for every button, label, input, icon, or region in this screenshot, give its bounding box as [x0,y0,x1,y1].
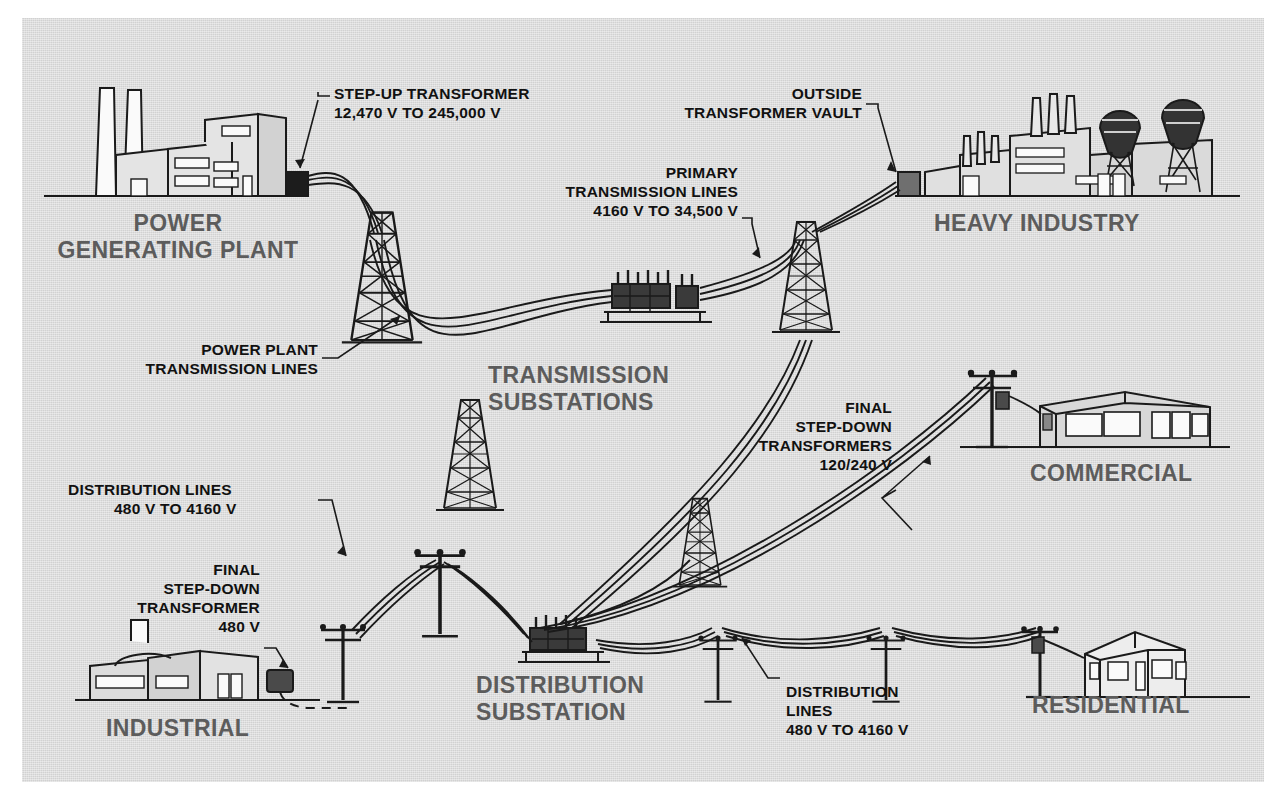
site-label-industrial: INDUSTRIAL [106,715,346,742]
site-label-power-generating-plant: POWERGENERATING PLANT [28,210,328,264]
site-label-heavy-industry: HEAVY INDUSTRY [934,210,1254,237]
callout-final-step-down-transformer-industrial: FINAL STEP-DOWN TRANSFORMER 480 V [54,560,260,636]
commercial-illustration [1040,392,1210,447]
distribution-lines-right [596,628,1084,658]
callout-power-plant-transmission-lines: POWER PLANT TRANSMISSION LINES [80,340,318,378]
industrial-step-down-transformer-box [267,670,293,692]
site-label-commercial: COMMERCIAL [1030,460,1270,487]
tower-b [436,400,504,510]
outside-transformer-vault-box [898,172,920,196]
callout-final-step-down-transformers-commercial: FINAL STEP-DOWN TRANSFORMERS 120/240 V [716,398,892,474]
pole-distribution-left [320,624,366,702]
callout-distribution-lines-left: DISTRIBUTION LINES 480 V TO 4160 V [68,480,314,518]
site-label-distribution-substation: DISTRIBUTIONSUBSTATION [476,672,776,726]
step-up-transformer-box [286,172,308,196]
pole-distribution-mid [414,549,466,636]
heavy-industry-illustration [898,94,1212,196]
callout-distribution-lines-right: DISTRIBUTION LINES 480 V TO 4160 V [786,682,909,739]
power-plant-illustration [96,88,308,196]
callout-primary-transmission-lines: PRIMARY TRANSMISSION LINES 4160 V TO 34,… [500,163,738,220]
callout-step-up-transformer: STEP-UP TRANSFORMER 12,470 V TO 245,000 … [334,84,530,122]
site-label-residential: RESIDENTIAL [1032,692,1272,719]
callout-outside-transformer-vault: OUTSIDE TRANSFORMER VAULT [604,84,862,122]
distribution-lines-left [352,560,532,642]
residential-illustration [1085,632,1186,697]
tower-c [772,222,840,332]
transmission-substation-equipment [600,270,712,322]
pole-commercial-transformer [968,370,1041,447]
diagram-canvas: POWERGENERATING PLANT HEAVY INDUSTRY TRA… [0,0,1286,810]
